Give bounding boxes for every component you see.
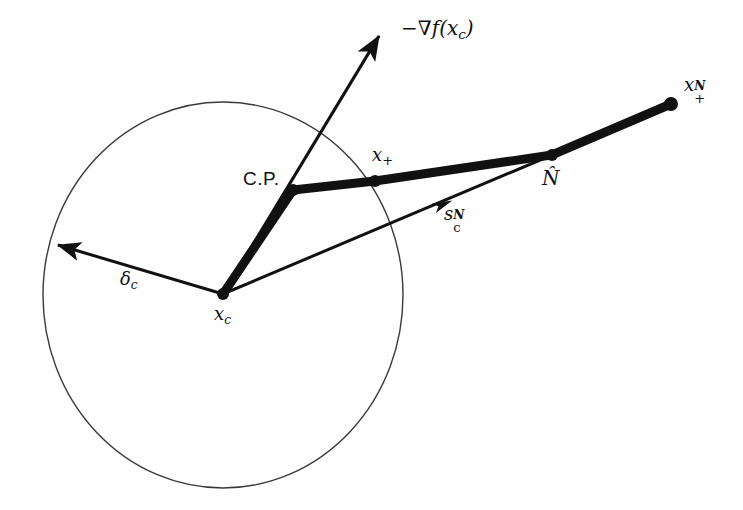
label-newton-step: sNc — [444, 205, 464, 223]
label-negative-gradient-subscript: c — [458, 26, 466, 42]
label-x-c-base: x — [214, 303, 224, 324]
label-cauchy-point: C.P. — [243, 169, 280, 188]
label-x-c-subscript: c — [224, 313, 231, 327]
label-x-plus-subscript: + — [382, 153, 393, 168]
diagram-svg — [0, 0, 743, 510]
figure-canvas: −∇f(xc) C.P. x+ N̂ xN+ sNc δc xc — [0, 0, 743, 510]
point-marker-xc — [217, 288, 229, 300]
label-delta-c-base: δ — [120, 268, 131, 289]
label-newton-step-subscript: c — [453, 222, 460, 235]
label-x-plus-newton-subscript: + — [694, 93, 705, 106]
point-marker-xplus — [369, 175, 381, 187]
label-negative-gradient-suffix: ) — [466, 16, 474, 40]
point-marker-xplusn — [664, 97, 678, 111]
label-x-plus-newton: xN+ — [684, 76, 705, 94]
point-marker-nhat — [546, 149, 558, 161]
label-negative-gradient: −∇f(xc) — [401, 18, 474, 42]
label-newton-step-base: s — [444, 203, 453, 224]
label-x-plus-newton-base: x — [684, 74, 694, 95]
label-x-plus-base: x — [372, 144, 382, 165]
trust-radius-arrow — [58, 245, 223, 294]
point-marker-cauchy — [287, 184, 299, 196]
label-newton-hat: N̂ — [542, 168, 560, 188]
label-negative-gradient-prefix: −∇f( — [401, 16, 447, 40]
label-x-c: xc — [214, 305, 231, 326]
label-negative-gradient-base: x — [447, 16, 458, 40]
label-x-plus: x+ — [372, 146, 393, 168]
label-delta-c-subscript: c — [131, 278, 138, 292]
label-delta-c: δc — [120, 270, 138, 291]
